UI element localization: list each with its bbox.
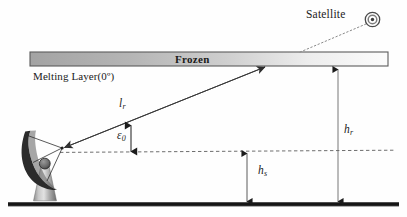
path-length-label: lr: [119, 98, 126, 111]
station-height-label: hs: [258, 165, 267, 178]
elevation-angle-label: ε0: [117, 130, 126, 143]
elevation-angle-subscript: 0: [122, 134, 126, 143]
dashed-horizon-line: [60, 150, 394, 152]
elevation-angle-symbol: ε: [117, 129, 122, 141]
rain-height-subscript: r: [350, 128, 353, 137]
path-length-subscript: r: [122, 102, 125, 111]
frozen-layer-label: Frozen: [175, 54, 210, 65]
rain-height-symbol: h: [344, 123, 350, 135]
satellite-bullseye-icon: [365, 12, 379, 26]
diagram-canvas: Satellite Frozen Melting Layer(0º) lr ε0…: [0, 0, 407, 217]
melting-layer-label: Melting Layer(0º): [33, 71, 114, 82]
dotted-satellite-link: [299, 24, 366, 53]
rain-height-label: hr: [344, 124, 353, 137]
ground-surface: [8, 202, 399, 206]
parabolic-dish-antenna: [22, 131, 64, 201]
station-height-symbol: h: [258, 164, 264, 176]
diagram-vector-layer: [0, 0, 407, 217]
satellite-label: Satellite: [306, 9, 345, 21]
station-height-subscript: s: [264, 169, 267, 178]
